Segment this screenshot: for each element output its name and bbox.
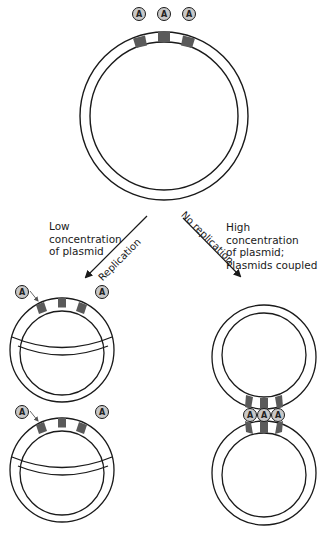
a-protein-icon: A	[244, 409, 257, 422]
a-protein-icon: A	[272, 409, 285, 422]
svg-text:A: A	[19, 408, 26, 417]
svg-text:A: A	[161, 10, 168, 19]
initial-plasmid: A A A	[80, 8, 248, 201]
svg-text:A: A	[99, 288, 106, 297]
high-concentration-label: High concentration of plasmid; Plasmids …	[226, 221, 326, 271]
svg-text:A: A	[186, 10, 193, 19]
a-protein-icon: A	[96, 286, 109, 299]
a-protein-icon: A	[16, 286, 29, 299]
svg-text:A: A	[19, 288, 26, 297]
binding-sites	[133, 32, 195, 49]
svg-text:A: A	[261, 411, 268, 420]
coupled-plasmid-top	[212, 305, 316, 409]
a-protein-icon: A	[133, 8, 146, 21]
a-protein-icon: A	[183, 8, 196, 21]
svg-text:A: A	[275, 411, 282, 420]
binding-arrow	[30, 411, 38, 421]
a-protein-icon: A	[96, 406, 109, 419]
a-protein-icon: A	[258, 409, 271, 422]
free-a-proteins: A A A	[133, 8, 196, 21]
a-protein-icon: A	[158, 8, 171, 21]
binding-arrow	[30, 291, 38, 301]
coupling-a-proteins: A A A	[244, 409, 285, 422]
coupled-plasmid-bottom	[212, 421, 316, 525]
svg-text:A: A	[99, 408, 106, 417]
replicating-plasmid-2: A A	[10, 406, 114, 523]
coupled-plasmids: A A A	[212, 305, 316, 525]
svg-text:A: A	[136, 10, 143, 19]
replicating-plasmid-1: A A	[10, 286, 114, 403]
a-protein-icon: A	[16, 406, 29, 419]
low-concentration-label: Low concentration of plasmid	[49, 220, 122, 258]
svg-text:A: A	[247, 411, 254, 420]
